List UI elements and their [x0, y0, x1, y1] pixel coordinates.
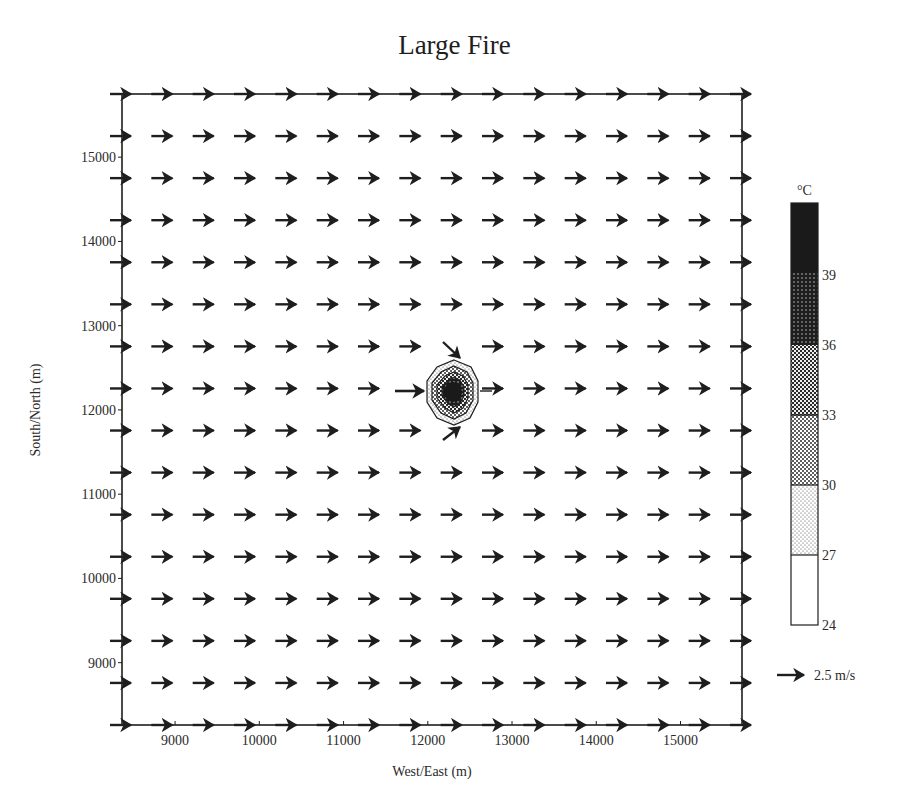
legend-level: 24 [822, 618, 836, 633]
x-tick-label: 14000 [579, 733, 614, 748]
x-axis-label: West/East (m) [392, 764, 472, 780]
y-axis: 9000100001100012000130001400015000 [81, 150, 122, 670]
y-axis-label: South/North (m) [28, 363, 44, 456]
y-tick-label: 12000 [81, 403, 116, 418]
y-tick-label: 11000 [82, 487, 116, 502]
legend-level: 33 [822, 408, 836, 423]
x-tick-label: 15000 [663, 733, 698, 748]
x-tick-label: 11000 [326, 733, 360, 748]
y-tick-label: 13000 [81, 319, 116, 334]
y-tick-label: 14000 [81, 234, 116, 249]
legend-level: 27 [822, 548, 836, 563]
y-tick-label: 9000 [88, 656, 116, 671]
legend-unit: °C [797, 183, 812, 198]
x-tick-label: 10000 [242, 733, 277, 748]
temperature-contour [395, 342, 492, 440]
colorbar-legend: °C 39 36 33 30 27 24 [791, 183, 836, 633]
chart-canvas: 9000100001100012000130001400015000 90001… [0, 0, 909, 806]
x-tick-label: 12000 [410, 733, 445, 748]
legend-level: 36 [822, 338, 836, 353]
x-tick-label: 9000 [161, 733, 189, 748]
x-tick-label: 13000 [495, 733, 530, 748]
y-tick-label: 15000 [81, 150, 116, 165]
legend-level: 39 [822, 268, 836, 283]
reference-vector: 2.5 m/s [777, 668, 855, 683]
legend-level: 30 [822, 478, 836, 493]
y-tick-label: 10000 [81, 571, 116, 586]
wind-vector-field [110, 94, 751, 725]
reference-vector-label: 2.5 m/s [814, 668, 855, 683]
